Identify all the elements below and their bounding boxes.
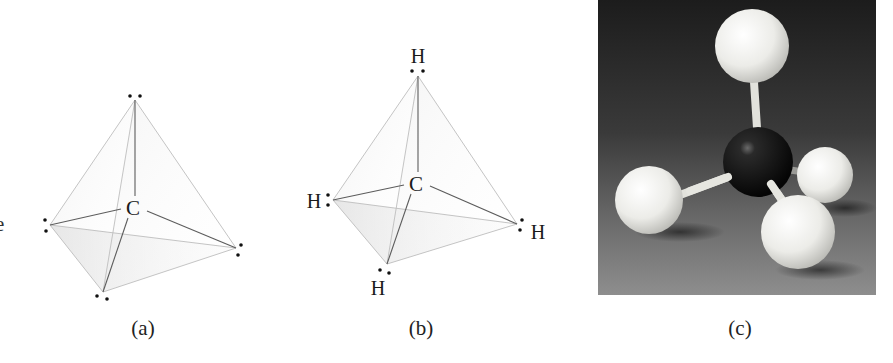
hydrogen-label-right: H bbox=[531, 221, 545, 243]
hydrogen-label-left: H bbox=[307, 190, 321, 212]
methane-figure: C C H H H H bbox=[0, 0, 893, 363]
hydrogen-ball-front bbox=[761, 195, 835, 269]
carbon-label: C bbox=[126, 196, 140, 220]
hydrogen-ball-top bbox=[715, 9, 789, 83]
panel-a-tetrahedron: C bbox=[43, 94, 243, 301]
hydrogen-label-top: H bbox=[411, 45, 425, 67]
hydrogen-ball-back-right bbox=[797, 147, 853, 203]
hydrogen-label-bottom: H bbox=[371, 277, 385, 299]
caption-a: (a) bbox=[131, 316, 154, 341]
hydrogen-ball-left bbox=[615, 166, 683, 234]
caption-c: (c) bbox=[728, 316, 751, 341]
panel-b-tetrahedron: C H H H H bbox=[307, 45, 545, 299]
carbon-ball bbox=[723, 127, 793, 197]
caption-b: (b) bbox=[409, 316, 434, 341]
panel-c-ball-and-stick-photo bbox=[598, 0, 877, 295]
carbon-label: C bbox=[409, 172, 423, 196]
